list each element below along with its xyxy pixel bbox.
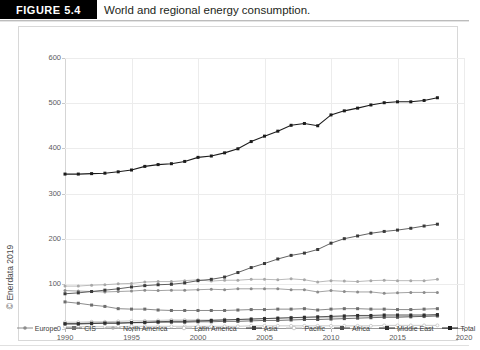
data-point <box>117 290 120 293</box>
data-point <box>290 277 293 280</box>
data-point <box>130 308 133 311</box>
x-tick-label: 2010 <box>311 334 351 342</box>
data-point <box>250 318 253 321</box>
data-point <box>210 288 213 291</box>
data-point <box>330 318 333 321</box>
data-point <box>77 285 80 288</box>
data-point <box>356 314 359 317</box>
legend-marker-icon <box>105 324 121 332</box>
gridline-vertical <box>464 58 465 329</box>
legend-item-europe[interactable]: Europe <box>17 324 58 333</box>
data-point <box>409 227 412 230</box>
data-point <box>157 163 160 166</box>
data-point <box>170 280 173 283</box>
data-point <box>117 282 120 285</box>
data-point <box>143 165 146 168</box>
y-tick-label: 600 <box>21 54 61 62</box>
data-point <box>396 314 399 317</box>
data-point <box>369 290 372 293</box>
data-point <box>356 234 359 237</box>
data-point <box>130 290 133 293</box>
data-point <box>263 287 266 290</box>
legend-item-africa[interactable]: Africa <box>334 324 370 333</box>
data-point <box>316 318 319 321</box>
data-point <box>117 170 120 173</box>
legend-item-total[interactable]: Total <box>442 324 475 333</box>
data-point <box>423 314 426 317</box>
data-point <box>157 283 160 286</box>
x-tick-label: 2015 <box>378 334 418 342</box>
data-series-layer <box>65 58 464 329</box>
data-point <box>276 308 279 311</box>
data-point <box>130 169 133 172</box>
data-point <box>423 99 426 102</box>
legend-item-middle-east[interactable]: Middle East <box>379 324 434 333</box>
data-point <box>236 271 239 274</box>
data-point <box>343 109 346 112</box>
x-tick-label: 2005 <box>245 334 285 342</box>
data-point <box>436 307 439 310</box>
legend-label: North America <box>123 324 167 333</box>
data-point <box>290 308 293 311</box>
data-point <box>409 314 412 317</box>
data-point <box>130 282 133 285</box>
data-point <box>396 279 399 282</box>
y-tick-label: 100 <box>21 280 61 288</box>
data-point <box>303 122 306 125</box>
data-point <box>330 279 333 282</box>
data-point <box>303 288 306 291</box>
data-point <box>330 113 333 116</box>
data-point <box>210 309 213 312</box>
data-point <box>369 232 372 235</box>
data-point <box>276 130 279 133</box>
data-point <box>290 254 293 257</box>
data-point <box>64 173 67 176</box>
data-point <box>343 314 346 317</box>
data-point <box>90 172 93 175</box>
legend-label: Africa <box>352 324 370 333</box>
legend-item-north-america[interactable]: North America <box>105 324 167 333</box>
plot-area: Energy Used per Year (Quad) 010020030040… <box>65 58 464 329</box>
data-point <box>290 288 293 291</box>
data-point <box>183 309 186 312</box>
series-line <box>65 98 437 174</box>
data-point <box>117 287 120 290</box>
data-point <box>250 308 253 311</box>
data-point <box>223 309 226 312</box>
legend-item-cis[interactable]: CIS <box>66 324 96 333</box>
data-point <box>236 309 239 312</box>
data-point <box>197 279 200 282</box>
data-point <box>90 290 93 293</box>
data-point <box>396 308 399 311</box>
data-point <box>183 281 186 284</box>
y-tick-label: 500 <box>21 99 61 107</box>
data-point <box>64 289 67 292</box>
data-point <box>330 315 333 318</box>
data-point <box>383 279 386 282</box>
data-point <box>103 172 106 175</box>
data-point <box>210 278 213 281</box>
data-point <box>263 308 266 311</box>
legend-item-pacific[interactable]: Pacific <box>286 324 325 333</box>
data-point <box>396 291 399 294</box>
data-point <box>343 317 346 320</box>
data-point <box>103 305 106 308</box>
header-divider-secondary <box>0 21 469 22</box>
legend-item-asia[interactable]: Asia <box>246 324 278 333</box>
data-point <box>250 278 253 281</box>
data-point <box>250 266 253 269</box>
legend-label: Latin America <box>194 324 236 333</box>
data-point <box>356 307 359 310</box>
data-point <box>290 124 293 127</box>
data-point <box>396 229 399 232</box>
data-point <box>316 290 319 293</box>
data-point <box>223 151 226 154</box>
data-point <box>330 308 333 311</box>
legend-item-latin-america[interactable]: Latin America <box>176 324 236 333</box>
data-point <box>343 280 346 283</box>
figure-number-tag: FIGURE 5.4 <box>0 0 97 19</box>
data-point <box>223 288 226 291</box>
data-point <box>316 315 319 318</box>
data-point <box>130 286 133 289</box>
data-point <box>303 316 306 319</box>
